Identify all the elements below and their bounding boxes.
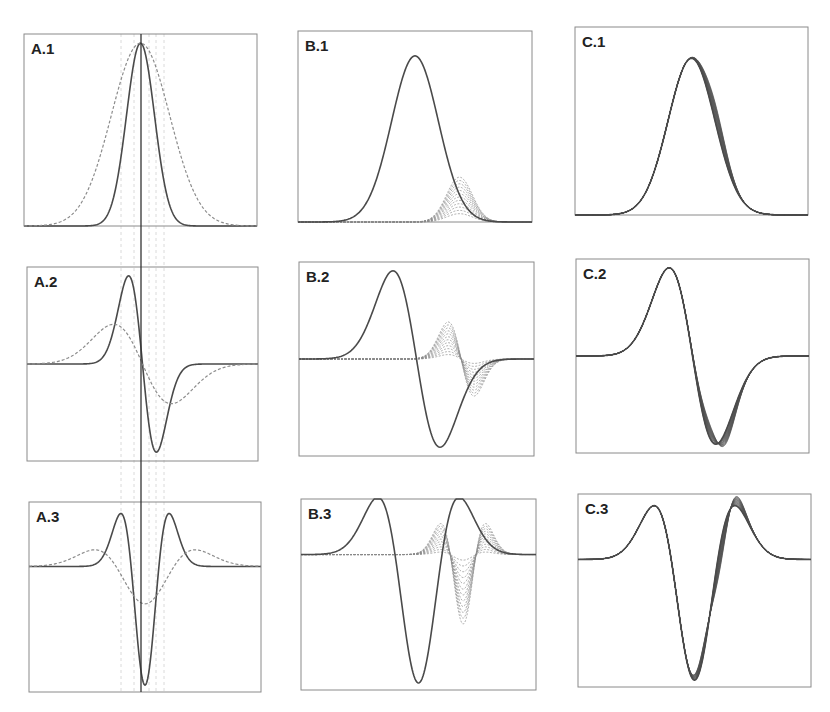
family-curve [298, 194, 532, 222]
panel-c-3: C.3 [578, 494, 811, 687]
family-curve [298, 177, 532, 222]
family-curve [301, 537, 536, 595]
family-curve [575, 58, 808, 215]
panel-c-2: C.2 [576, 259, 809, 453]
panel-b-1: B.1 [298, 31, 532, 222]
panel-c-1: C.1 [575, 27, 808, 215]
family-curve [578, 504, 811, 679]
family-curve [575, 58, 808, 215]
panel-frame [29, 502, 261, 692]
family-curve [301, 529, 536, 613]
panel-label: A.3 [36, 508, 59, 525]
family-curve [575, 58, 808, 215]
figure-canvas: A.1A.2A.3B.1B.2B.3C.1C.2C.3 [0, 0, 830, 712]
panel-label: B.1 [305, 37, 328, 54]
family-curve [578, 498, 811, 676]
panel-label: A.1 [31, 40, 54, 57]
family-curve [298, 187, 532, 222]
dashed-curve [29, 550, 261, 604]
family-curve [575, 58, 808, 215]
solid-curve [298, 56, 532, 222]
panel-label: C.1 [582, 33, 605, 50]
family-curve [578, 502, 811, 678]
family-curve [301, 524, 536, 624]
family-curve [575, 57, 808, 215]
family-curve [301, 534, 536, 601]
family-curve [301, 526, 536, 618]
family-curve [578, 504, 811, 679]
solid-curve [578, 506, 811, 680]
family-curve [298, 210, 532, 222]
solid-curve [301, 499, 536, 683]
family-curve [575, 57, 808, 215]
family-curve [575, 58, 808, 215]
solid-curve [576, 268, 809, 444]
family-curve [575, 58, 808, 215]
solid-curve [575, 58, 808, 215]
family-curve [298, 214, 532, 222]
panel-frame [298, 31, 532, 222]
family-curve [578, 496, 811, 674]
panel-a-2: A.2 [27, 267, 258, 461]
family-curve [575, 57, 808, 215]
family-curve [298, 180, 532, 222]
family-curve [298, 204, 532, 222]
panel-label: B.2 [306, 268, 329, 285]
family-curve [575, 58, 808, 215]
family-curve [298, 190, 532, 222]
family-curve [578, 499, 811, 676]
family-curve [575, 58, 808, 215]
panel-frame [578, 494, 811, 687]
family-curve [301, 531, 536, 606]
panel-label: C.2 [583, 265, 606, 282]
family-curve [575, 58, 808, 215]
family-curve [578, 506, 811, 680]
family-curve [575, 58, 808, 215]
family-curve [578, 503, 811, 678]
panel-label: B.3 [308, 505, 331, 522]
family-curve [578, 505, 811, 680]
family-curve [298, 200, 532, 222]
panel-label: A.2 [34, 273, 57, 290]
solid-curve [29, 513, 261, 685]
panel-label: C.3 [585, 500, 608, 517]
panels-grid: A.1A.2A.3B.1B.2B.3C.1C.2C.3 [24, 27, 811, 692]
family-curve [578, 497, 811, 675]
panel-a-3: A.3 [29, 502, 261, 692]
family-curve [578, 501, 811, 677]
family-curve [575, 58, 808, 215]
family-curve [298, 207, 532, 222]
panel-frame [575, 27, 808, 215]
panel-frame [301, 499, 536, 690]
family-curve [578, 499, 811, 676]
family-curve [298, 197, 532, 222]
family-curve [298, 184, 532, 222]
family-curve [578, 502, 811, 678]
family-curve [578, 500, 811, 677]
panel-b-2: B.2 [299, 262, 534, 456]
panel-b-3: B.3 [301, 499, 536, 690]
